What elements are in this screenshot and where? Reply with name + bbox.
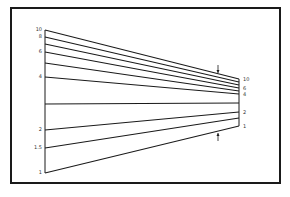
converging-line [45,37,239,82]
converging-line [45,63,239,91]
converging-line [45,112,239,130]
converging-line [45,30,239,79]
left-axis-label: 2 [28,127,42,132]
left-axis-label: 4 [28,74,42,79]
left-axis-label: 6 [28,49,42,54]
right-axis-label: 4 [243,92,246,97]
converging-line [45,52,239,88]
left-axis-label: 10 [28,27,42,32]
converging-line [45,77,239,94]
converging-line [45,103,239,104]
right-axis-label: 2 [243,110,246,115]
arrow-down-icon [217,70,220,73]
converging-lines-diagram [0,0,290,197]
right-axis-label: 1 [243,124,246,129]
left-axis-label: 8 [28,34,42,39]
arrow-up-icon [217,133,220,136]
left-axis-label: 1.5 [28,145,42,150]
left-axis-label: 1 [28,170,42,175]
converging-line [45,44,239,85]
right-axis-label: 10 [243,77,249,82]
